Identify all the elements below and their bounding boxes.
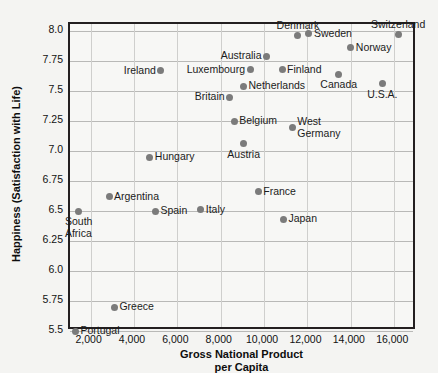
data-point-label: Spain <box>160 205 187 217</box>
gridline-horizontal <box>70 331 413 332</box>
data-point <box>157 67 164 74</box>
gridline-horizontal <box>70 271 413 272</box>
gridline-horizontal <box>70 241 413 242</box>
plot-area: PortugalGreeceSouth AfricaArgentinaSpain… <box>68 22 415 329</box>
data-point-label: Finland <box>287 64 321 76</box>
y-axis-tick-label: 5.75 <box>43 293 63 305</box>
y-axis-tick-label: 8.0 <box>48 23 63 35</box>
y-axis-tick-label: 6.0 <box>48 263 63 275</box>
data-point <box>75 208 82 215</box>
y-axis-tick-label: 6.25 <box>43 233 63 245</box>
data-point <box>240 83 247 90</box>
y-axis-tick-label: 6.5 <box>48 203 63 215</box>
data-point-label: Switzerland <box>371 18 425 30</box>
data-point <box>146 154 153 161</box>
data-point-label: Japan <box>288 214 317 226</box>
y-axis-tick-label: 7.25 <box>43 113 63 125</box>
y-axis-tick-label: 7.5 <box>48 83 63 95</box>
data-point <box>152 208 159 215</box>
x-axis-title-line1: Gross National Product <box>68 348 415 361</box>
gridline-horizontal <box>70 181 413 182</box>
gridline-horizontal <box>70 31 413 32</box>
data-point <box>197 206 204 213</box>
data-point <box>280 216 287 223</box>
data-point-label: Netherlands <box>249 81 306 93</box>
gridline-vertical <box>91 24 92 327</box>
data-point-label: Britain <box>195 91 225 103</box>
data-point-label: South Africa <box>65 216 92 239</box>
data-point-label: Canada <box>320 79 357 91</box>
x-axis-tick-label: 16,000 <box>376 333 408 345</box>
data-point-label: Ireland <box>124 65 156 77</box>
data-point-label: West Germany <box>297 116 340 139</box>
data-point <box>395 31 402 38</box>
data-point <box>294 32 301 39</box>
data-point-label: Australia <box>221 51 262 63</box>
x-axis-title: Gross National Product per Capita <box>68 348 415 373</box>
data-point <box>106 193 113 200</box>
data-point-label: Hungary <box>155 151 195 163</box>
data-point <box>263 53 270 60</box>
data-point-label: U.S.A. <box>367 89 397 101</box>
data-point <box>347 44 354 51</box>
y-axis-ticks: 5.55.756.06.256.56.757.07.257.57.758.0 <box>24 22 63 329</box>
data-point <box>379 80 386 87</box>
x-axis-tick-label: 4,000 <box>119 333 145 345</box>
data-point-label: France <box>263 186 296 198</box>
y-axis-tick-label: 7.0 <box>48 143 63 155</box>
x-axis-ticks: 2,0004,0006,0008,00010,00012,00014,00016… <box>68 333 415 349</box>
data-point-label: Luxembourg <box>187 64 245 76</box>
gridline-vertical <box>351 24 352 327</box>
x-axis-tick-label: 2,000 <box>75 333 101 345</box>
data-point <box>111 304 118 311</box>
gridline-vertical <box>394 24 395 327</box>
data-point-label: Sweden <box>314 28 352 40</box>
y-axis-title: Happiness (Satisfaction with Life) <box>10 54 22 294</box>
y-axis-tick-label: 6.75 <box>43 173 63 185</box>
x-axis-tick-label: 10,000 <box>246 333 278 345</box>
data-point-label: Argentina <box>114 191 159 203</box>
data-point <box>279 66 286 73</box>
gridline-vertical <box>264 24 265 327</box>
y-axis-tick-label: 5.5 <box>48 323 63 335</box>
data-point <box>226 94 233 101</box>
x-axis-tick-label: 14,000 <box>333 333 365 345</box>
data-point-label: Austria <box>227 149 260 161</box>
y-axis-tick-label: 7.75 <box>43 53 63 65</box>
data-point-label: Greece <box>119 301 153 313</box>
x-axis-tick-label: 6,000 <box>162 333 188 345</box>
data-point <box>240 140 247 147</box>
data-point <box>305 30 312 37</box>
data-point <box>289 124 296 131</box>
data-point <box>247 66 254 73</box>
data-point-label: Italy <box>206 204 225 216</box>
x-axis-tick-label: 12,000 <box>289 333 321 345</box>
data-point-label: Belgium <box>239 115 277 127</box>
x-axis-title-line2: per Capita <box>68 361 415 373</box>
x-axis-tick-label: 8,000 <box>206 333 232 345</box>
data-point <box>231 118 238 125</box>
gridline-horizontal <box>70 91 413 92</box>
data-point <box>255 188 262 195</box>
gridline-horizontal <box>70 211 413 212</box>
data-point <box>335 71 342 78</box>
data-point-label: Denmark <box>277 19 320 31</box>
data-point-label: Norway <box>356 42 392 54</box>
gridline-vertical <box>177 24 178 327</box>
